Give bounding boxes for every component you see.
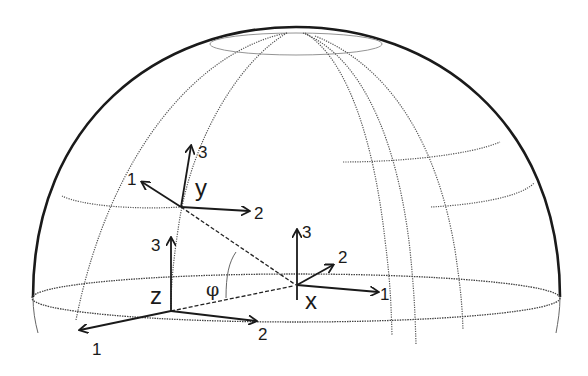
- frame-y-label: y: [195, 174, 207, 201]
- frame-z: [80, 238, 256, 330]
- z-axis-3-label: 3: [151, 236, 160, 255]
- hemisphere-diagram: 3 1 2 y 3 1 2 z 3 2 1 x φ: [0, 0, 588, 376]
- y-axis-1-label: 1: [127, 170, 136, 189]
- frame-z-label: z: [150, 282, 162, 309]
- frame-x-label: x: [305, 287, 317, 314]
- x-axis-3-label: 3: [302, 223, 311, 242]
- z-axis-2-arrow: [171, 311, 256, 321]
- x-axis-2-label: 2: [338, 248, 347, 267]
- y-axis-1-arrow: [142, 182, 181, 207]
- x-axis-2-arrow: [297, 265, 333, 285]
- z-to-x-line: [171, 286, 293, 311]
- phi-label: φ: [206, 278, 219, 300]
- z-axis-2-label: 2: [258, 325, 267, 344]
- y-axis-2-label: 2: [254, 204, 263, 223]
- y-axis-3-label: 3: [198, 143, 207, 162]
- y-axis-2-arrow: [181, 207, 249, 211]
- polar-cap: [210, 33, 382, 55]
- x-axis-1-label: 1: [380, 285, 389, 304]
- z-axis-1-label: 1: [92, 340, 101, 359]
- equator: [32, 274, 560, 322]
- z-axis-1-arrow: [80, 311, 171, 330]
- diagram-svg: 3 1 2 y 3 1 2 z 3 2 1 x φ: [0, 0, 588, 376]
- y-to-x-line: [181, 207, 296, 285]
- y-axis-3-arrow: [181, 146, 191, 207]
